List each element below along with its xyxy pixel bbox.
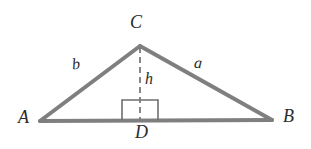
geometry-figure: A B C D b a h bbox=[0, 0, 311, 149]
vertex-label-d: D bbox=[135, 123, 148, 141]
triangle-side-base bbox=[40, 120, 272, 121]
altitude-label-h: h bbox=[145, 71, 153, 87]
vertex-label-b: B bbox=[283, 107, 294, 125]
triangle-side-b bbox=[40, 46, 140, 121]
side-label-b: b bbox=[71, 56, 81, 73]
side-label-a: a bbox=[193, 55, 202, 72]
vertex-label-c: C bbox=[130, 13, 142, 31]
vertex-label-a: A bbox=[18, 108, 29, 126]
triangle-side-a bbox=[140, 46, 272, 120]
triangle-diagram-canvas bbox=[0, 0, 311, 149]
